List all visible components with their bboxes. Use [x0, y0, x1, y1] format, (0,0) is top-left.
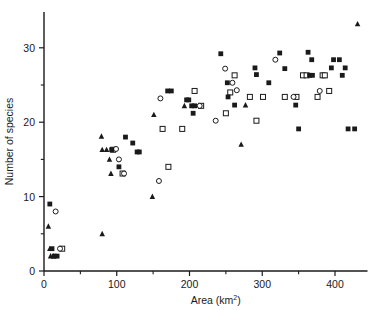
- data-point-filled-square: [346, 126, 351, 131]
- data-point-filled-triangle: [107, 156, 113, 161]
- data-point-filled-square: [117, 164, 122, 169]
- data-point-open-square: [192, 88, 197, 93]
- data-point-filled-square: [226, 95, 231, 100]
- data-point-open-circle: [156, 178, 161, 183]
- data-point-open-circle: [158, 96, 163, 101]
- data-point-open-square: [282, 94, 287, 99]
- data-point-filled-square: [191, 111, 196, 116]
- data-point-open-square: [223, 111, 228, 116]
- data-point-filled-square: [123, 135, 128, 140]
- data-point-filled-triangle: [243, 102, 249, 107]
- data-point-filled-square: [232, 103, 237, 108]
- data-point-filled-square: [55, 254, 60, 259]
- data-point-open-circle: [197, 103, 202, 108]
- data-point-open-square: [180, 126, 185, 131]
- data-point-filled-triangle: [355, 21, 361, 26]
- data-point-open-circle: [317, 88, 322, 93]
- data-point-filled-square: [218, 51, 223, 56]
- x-tick-label: 300: [253, 278, 271, 290]
- data-point-filled-triangle: [99, 133, 105, 138]
- data-point-filled-triangle: [46, 223, 52, 228]
- data-point-filled-square: [253, 65, 258, 70]
- x-tick-label: 0: [41, 278, 47, 290]
- data-point-filled-square: [192, 103, 197, 108]
- data-point-filled-square: [343, 65, 348, 70]
- series-open-circle: [53, 57, 322, 251]
- data-point-filled-square: [340, 73, 345, 78]
- data-point-filled-square: [331, 57, 336, 62]
- y-tick-label: 30: [23, 42, 35, 54]
- axes-spines: [44, 12, 368, 271]
- data-point-open-circle: [53, 209, 58, 214]
- data-point-filled-triangle: [99, 231, 105, 236]
- data-point-filled-square: [352, 126, 357, 131]
- data-point-open-square: [247, 94, 252, 99]
- data-point-filled-square: [169, 89, 174, 94]
- data-point-open-circle: [291, 94, 296, 99]
- data-point-filled-square: [306, 50, 311, 55]
- data-point-filled-square: [310, 73, 315, 78]
- data-point-filled-triangle: [104, 147, 110, 152]
- y-axis-label: Number of species: [3, 98, 15, 186]
- data-point-open-circle: [273, 57, 278, 62]
- data-point-filled-square: [296, 126, 301, 131]
- data-point-filled-square: [309, 57, 314, 62]
- data-point-open-circle: [234, 88, 239, 93]
- data-point-open-circle: [58, 246, 63, 251]
- x-axis-ticks: 0100200300400: [41, 271, 344, 290]
- data-point-filled-triangle: [108, 171, 114, 176]
- x-tick-label: 400: [326, 278, 344, 290]
- data-point-filled-square: [137, 150, 142, 155]
- data-point-filled-square: [109, 147, 114, 152]
- data-point-filled-triangle: [99, 147, 105, 152]
- data-point-filled-triangle: [238, 142, 244, 147]
- data-point-filled-square: [50, 246, 55, 251]
- data-point-filled-square: [225, 80, 230, 85]
- data-point-filled-triangle: [182, 103, 188, 108]
- data-point-open-circle: [230, 80, 235, 85]
- figure-container: 01002003004000102030Area (km2)Number of …: [0, 0, 379, 310]
- x-tick-label: 200: [181, 278, 199, 290]
- data-point-open-circle: [122, 171, 127, 176]
- data-point-open-square: [232, 73, 237, 78]
- series-filled-triangle: [46, 21, 361, 258]
- x-tick-label: 100: [108, 278, 126, 290]
- data-point-open-square: [254, 118, 259, 123]
- data-point-filled-square: [337, 57, 342, 62]
- x-axis-label: Area (km2): [191, 294, 241, 306]
- data-point-filled-square: [282, 66, 287, 71]
- data-point-filled-square: [47, 202, 52, 207]
- y-tick-label: 10: [23, 191, 35, 203]
- data-point-filled-square: [254, 72, 259, 77]
- data-point-filled-square: [130, 141, 135, 146]
- data-point-open-square: [160, 126, 165, 131]
- scatter-plot: 01002003004000102030Area (km2)Number of …: [0, 0, 379, 310]
- data-point-open-square: [322, 73, 327, 78]
- data-point-filled-square: [266, 80, 271, 85]
- data-point-open-square: [260, 94, 265, 99]
- data-point-filled-triangle: [150, 194, 156, 199]
- data-point-open-circle: [213, 118, 218, 123]
- data-point-open-square: [327, 88, 332, 93]
- data-point-filled-square: [186, 97, 191, 102]
- data-point-open-square: [228, 90, 233, 95]
- data-point-filled-square: [329, 65, 334, 70]
- data-point-open-circle: [116, 157, 121, 162]
- data-point-filled-triangle: [151, 112, 157, 117]
- y-axis-ticks: 0102030: [23, 42, 44, 277]
- data-point-filled-square: [277, 51, 282, 56]
- data-point-open-circle: [223, 66, 228, 71]
- series-open-square: [60, 73, 332, 251]
- y-tick-label: 0: [29, 265, 35, 277]
- series-filled-square: [47, 50, 357, 259]
- data-point-filled-square: [293, 103, 298, 108]
- data-point-open-circle: [114, 146, 119, 151]
- data-point-open-square: [166, 164, 171, 169]
- data-point-open-square: [315, 94, 320, 99]
- y-tick-label: 20: [23, 116, 35, 128]
